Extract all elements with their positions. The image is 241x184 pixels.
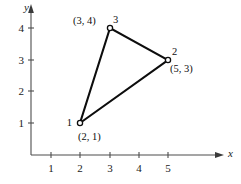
vertex-labels-group: (3, 4) 3 2 (5, 3) 1 (2, 1) [67, 14, 193, 143]
y-tick-labels: 4 3 2 1 [19, 22, 25, 129]
x-tick-label-3: 3 [107, 162, 113, 174]
x-axis-group: x [31, 147, 233, 159]
triangle-shape [80, 28, 168, 123]
x-tick-labels: 1 2 3 4 5 [48, 162, 171, 174]
vertex-marker-2 [165, 57, 170, 62]
y-axis-group: y [23, 1, 34, 155]
x-axis-label: x [227, 147, 233, 159]
x-tick-label-5: 5 [165, 162, 171, 174]
vertex-2-id-label: 2 [172, 46, 177, 57]
y-axis-arrowhead [28, 4, 34, 13]
y-tick-label-2: 2 [19, 85, 25, 97]
vertex-marker-3 [107, 25, 112, 30]
x-axis-arrowhead [215, 152, 224, 158]
coordinate-plane-figure: y 4 3 2 1 x [0, 0, 241, 184]
y-axis-label: y [23, 1, 29, 13]
vertex-2-coord-label: (5, 3) [170, 63, 193, 75]
x-tick-label-2: 2 [77, 162, 83, 174]
vertex-3-id-label: 3 [113, 14, 118, 25]
y-tick-label-4: 4 [19, 22, 25, 34]
vertex-marker-1 [77, 120, 82, 125]
vertex-3-coord-label: (3, 4) [73, 15, 96, 27]
y-tick-label-1: 1 [19, 117, 25, 129]
vertex-1-id-label: 1 [67, 117, 72, 128]
vertex-1-coord-label: (2, 1) [78, 131, 101, 143]
plot-area: y 4 3 2 1 x [0, 0, 241, 184]
x-tick-label-1: 1 [48, 162, 54, 174]
y-tick-label-3: 3 [19, 54, 25, 66]
x-tick-label-4: 4 [136, 162, 142, 174]
